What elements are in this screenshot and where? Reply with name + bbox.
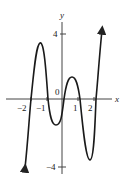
- tick-label-x-neg2: −2: [17, 103, 27, 113]
- y-axis-label: y: [59, 10, 64, 20]
- origin-label: 0: [55, 87, 60, 97]
- x-axis-label: x: [114, 94, 119, 104]
- tick-label-x-2: 2: [88, 103, 93, 113]
- tick-label-y-4: 4: [53, 29, 58, 39]
- tick-label-x-neg1: −1: [36, 103, 46, 113]
- graph: x y 0 −2 −1 1 2 4 −4: [0, 0, 127, 182]
- tick-label-y-neg4: −4: [46, 162, 56, 172]
- tick-label-x-1: 1: [73, 103, 78, 113]
